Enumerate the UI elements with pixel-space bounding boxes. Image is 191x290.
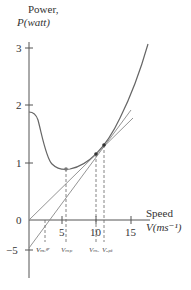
x-tick-15: 15 xyxy=(125,227,136,238)
vmp-point xyxy=(64,167,68,171)
tangent-line-offset xyxy=(29,110,131,248)
tangent-line-origin xyxy=(29,118,133,220)
y-tick-3: 3 xyxy=(16,43,22,54)
x-tick-5: 5 xyxy=(59,227,65,238)
y-tick-minus5: −5 xyxy=(6,245,18,256)
y-tick-2: 2 xyxy=(16,100,22,111)
x-axis-title: Speed xyxy=(146,207,173,219)
power-curve xyxy=(29,44,148,169)
y-tick-0: 0 xyxy=(16,215,22,226)
y-tick-1: 1 xyxy=(16,158,22,169)
label-v-mp: Vₘₚ xyxy=(61,246,72,254)
x-axis-unit: V(ms⁻¹) xyxy=(146,221,181,233)
y-axis-title: Power, xyxy=(28,3,58,15)
label-v-mr: Vₘᵣ xyxy=(89,246,99,254)
label-v-migr: Vₘᵢᵍʳ xyxy=(36,246,49,254)
label-v-opt: Vₒₚₜ xyxy=(102,246,113,254)
vopt-point xyxy=(102,143,106,147)
y-axis-unit: P(watt) xyxy=(17,16,50,28)
x-tick-10: 10 xyxy=(90,227,101,238)
vmr-point xyxy=(94,152,98,156)
